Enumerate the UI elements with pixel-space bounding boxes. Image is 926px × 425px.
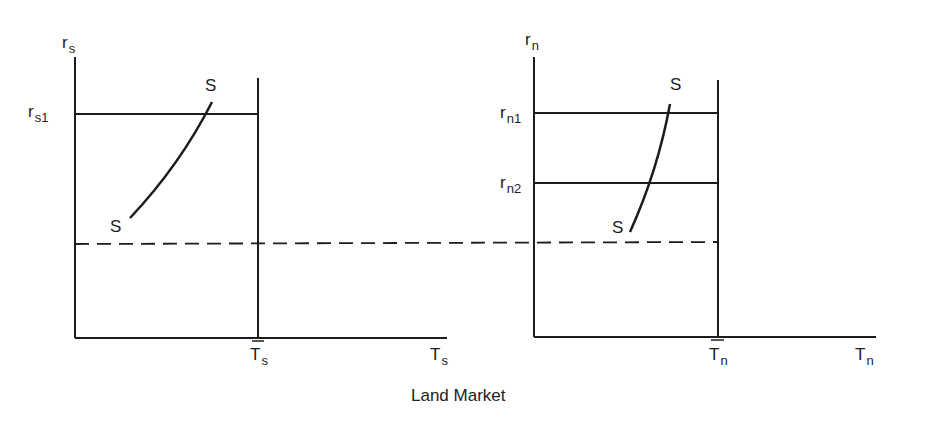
label-subscript: n	[866, 353, 873, 368]
label-subscript: s1	[35, 110, 49, 125]
label-base: T	[430, 345, 440, 364]
label-subscript: n	[720, 353, 727, 368]
right-fixed-supply-label: Tn	[709, 346, 728, 363]
label-base: T	[855, 345, 865, 364]
label-subscript: n2	[507, 181, 521, 196]
label-base: r	[28, 102, 34, 121]
right-y-axis-label: rn	[525, 31, 539, 48]
left-curve-top-label: S	[205, 77, 216, 94]
label-base: T	[709, 345, 719, 364]
left-fixed-supply-label: Ts	[250, 346, 268, 363]
equilibrium-dashed-line	[75, 242, 718, 244]
left-curve-bottom-label: S	[110, 218, 121, 235]
right-x-axis-label: Tn	[855, 346, 874, 363]
label-base: r	[62, 33, 68, 52]
right-curve-bottom-label: S	[612, 219, 623, 236]
label-subscript: s	[261, 353, 268, 368]
label-subscript: n1	[507, 111, 521, 126]
left-price-level-label: rs1	[28, 103, 48, 120]
label-base: T	[250, 345, 260, 364]
left-x-axis-label: Ts	[430, 346, 448, 363]
label-base: r	[500, 103, 506, 122]
label-subscript: s	[69, 41, 76, 56]
right-curve-top-label: S	[670, 76, 681, 93]
figure-caption: Land Market	[411, 386, 506, 406]
land-market-diagram	[0, 0, 926, 425]
label-subscript: n	[532, 38, 539, 53]
right-price-level-2-label: rn2	[500, 174, 521, 191]
label-subscript: s	[441, 353, 448, 368]
label-base: r	[500, 173, 506, 192]
label-base: r	[525, 30, 531, 49]
left-supply-curve	[130, 102, 212, 218]
right-supply-curve	[630, 104, 670, 232]
right-price-level-1-label: rn1	[500, 104, 521, 121]
left-y-axis-label: rs	[62, 34, 75, 51]
